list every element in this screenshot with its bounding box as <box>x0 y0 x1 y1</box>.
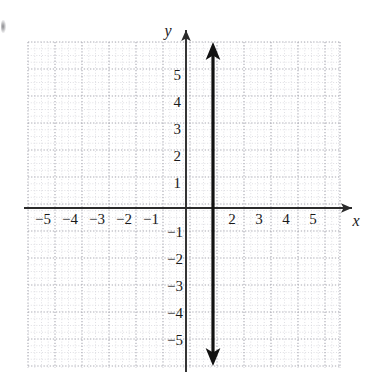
scan-edge-artifact <box>1 20 6 33</box>
x-tick-label: 3 <box>255 211 263 227</box>
x-tick-label: 5 <box>309 211 317 227</box>
y-tick-label: 3 <box>174 121 182 137</box>
y-tick-label: −2 <box>167 251 183 267</box>
y-tick-label: 2 <box>174 148 182 164</box>
x-tick-label: −4 <box>62 211 78 227</box>
x-tick-label: 4 <box>282 211 290 227</box>
y-tick-label: 5 <box>174 67 182 83</box>
y-tick-label: −3 <box>167 278 183 294</box>
y-tick-label: −5 <box>167 332 183 348</box>
y-axis-label: y <box>162 22 172 40</box>
x-tick-label: −5 <box>35 211 51 227</box>
graph-svg: −5 −4 −3 −2 −1 2 3 4 5 5 4 3 2 1 −1 −2 −… <box>0 0 372 386</box>
x-tick-label: 2 <box>228 211 236 227</box>
x-tick-label: −1 <box>143 211 159 227</box>
x-axis-label: x <box>351 212 359 229</box>
x-tick-label: −3 <box>89 211 105 227</box>
y-tick-label: −1 <box>167 224 183 240</box>
coordinate-plane-figure: −5 −4 −3 −2 −1 2 3 4 5 5 4 3 2 1 −1 −2 −… <box>0 0 372 386</box>
x-tick-label: −2 <box>116 211 132 227</box>
y-tick-label: 1 <box>174 175 182 191</box>
y-tick-label: −4 <box>167 305 183 321</box>
y-tick-label: 4 <box>174 94 182 110</box>
